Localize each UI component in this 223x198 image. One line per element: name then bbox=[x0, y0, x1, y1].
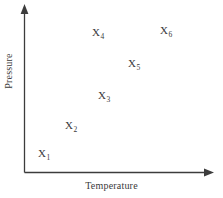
data-point-x5-base: X bbox=[128, 57, 136, 69]
scatter-chart-figure: Pressure Temperature X1 X2 X3 X4 X5 X6 bbox=[0, 0, 223, 198]
data-point-x6-subscript: 6 bbox=[168, 30, 172, 39]
data-point-x3: X3 bbox=[98, 90, 110, 101]
data-point-x6-base: X bbox=[160, 24, 168, 36]
y-axis-label-container: Pressure bbox=[0, 31, 16, 111]
data-point-x3-base: X bbox=[98, 89, 106, 101]
chart-axes bbox=[0, 0, 223, 198]
data-point-x5-subscript: 5 bbox=[136, 63, 140, 72]
data-point-x5: X5 bbox=[128, 58, 140, 69]
y-axis-arrowhead bbox=[21, 4, 29, 14]
data-point-x4-base: X bbox=[92, 26, 100, 38]
y-axis-label: Pressure bbox=[3, 53, 14, 88]
data-point-x4-subscript: 4 bbox=[100, 32, 104, 41]
data-point-x2: X2 bbox=[65, 120, 77, 131]
x-axis-label: Temperature bbox=[0, 180, 223, 191]
data-point-x2-base: X bbox=[65, 119, 73, 131]
data-point-x1: X1 bbox=[38, 148, 50, 159]
data-point-x2-subscript: 2 bbox=[73, 125, 77, 134]
data-point-x1-subscript: 1 bbox=[46, 153, 50, 162]
data-point-x1-base: X bbox=[38, 147, 46, 159]
data-point-x4: X4 bbox=[92, 27, 104, 38]
data-point-x6: X6 bbox=[160, 25, 172, 36]
data-point-x3-subscript: 3 bbox=[106, 95, 110, 104]
x-axis-arrowhead bbox=[204, 169, 214, 177]
